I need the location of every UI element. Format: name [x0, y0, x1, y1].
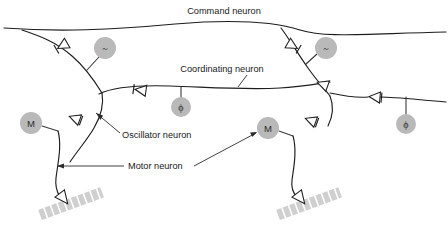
synapse-coord-far-right [369, 91, 382, 103]
coordinating-neuron-far-right [380, 97, 446, 102]
muscle-left-band [38, 187, 104, 220]
left-motor-neuron-group [42, 126, 60, 197]
soma-glyph-oscillator-right: ~ [323, 43, 329, 54]
soma-osc-right: ~ [315, 37, 337, 59]
command-neuron-axon [4, 22, 446, 35]
soma-glyph-motor-right: M [264, 123, 272, 134]
motor-left-soma-stem [42, 126, 58, 131]
soma-coord-mid: ϕ [171, 97, 191, 117]
synapse-motor-left [67, 111, 83, 126]
motor-left-axon [56, 131, 60, 197]
left-descending-branch-group [22, 30, 103, 162]
soma-motor-left: M [20, 112, 42, 134]
leader-coordinating-neuron [238, 75, 247, 87]
muscle-left-group [38, 186, 104, 221]
label-coordinating-neuron: Coordinating neuron [180, 64, 263, 74]
synapse-bar [133, 84, 134, 94]
synapse-triangle [303, 113, 317, 127]
muscle-right-group [276, 186, 342, 221]
synapse-cmd-right [285, 38, 301, 54]
osc-left-stem [87, 57, 99, 70]
synapse-bar [296, 45, 301, 54]
left-command-branch [22, 30, 102, 93]
right-motor-neuron-group [279, 131, 297, 197]
right-branch-lower [328, 96, 332, 126]
left-branch-lower [70, 93, 103, 162]
soma-motor-right: M [257, 117, 279, 139]
label-command-neuron: Command neuron [187, 6, 261, 16]
muscle-right-band [276, 187, 342, 220]
synapse-triangle [369, 91, 381, 103]
soma-osc-left: ~ [94, 37, 116, 59]
motor-right-axon [292, 136, 297, 197]
coordinating-neuron-right-extension [330, 93, 368, 97]
label-oscillator-neuron: Oscillator neuron [122, 130, 191, 140]
neural-circuit-diagram: ~ ~ ϕ ϕ M M Command neuron Coordinating … [0, 0, 448, 240]
leader-oscillator-arrowhead [96, 113, 103, 120]
soma-coord-right: ϕ [396, 114, 416, 134]
leader-motor-neuron-right [194, 133, 256, 166]
right-oscillator-stem-group [306, 54, 317, 64]
label-motor-neuron: Motor neuron [128, 161, 183, 171]
synapse-triangle [67, 111, 81, 125]
coordinating-neuron-group [99, 82, 446, 115]
circuit-canvas: ~ ~ ϕ ϕ M M Command neuron Coordinating … [0, 0, 448, 240]
leader-motor-arrowhead-right [250, 132, 257, 137]
soma-glyph-coordinating-right: ϕ [403, 119, 408, 130]
synapse-bar [381, 93, 382, 103]
osc-right-stem [306, 54, 317, 64]
command-neuron-group [4, 22, 446, 35]
soma-glyph-coordinating-mid: ϕ [178, 102, 183, 113]
synapse-motor-right [303, 113, 319, 128]
left-oscillator-stem-group [87, 57, 99, 70]
soma-glyph-motor-left: M [27, 118, 35, 129]
motor-right-soma-stem [279, 131, 293, 136]
soma-glyph-oscillator-left: ~ [102, 43, 108, 54]
